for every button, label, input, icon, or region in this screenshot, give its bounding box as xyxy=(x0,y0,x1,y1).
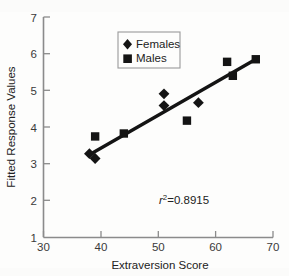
scatter-plot-figure: 7 6 5 4 3 2 1 30 40 50 60 70 Females xyxy=(0,0,289,276)
legend-label-males: Males xyxy=(136,52,167,64)
y-tick-label-2: 2 xyxy=(31,195,37,207)
x-tick-label-40: 40 xyxy=(95,241,108,253)
data-point-male xyxy=(223,58,231,66)
data-point-female xyxy=(193,97,204,108)
y-tick-label-3: 3 xyxy=(31,158,37,170)
data-point-male xyxy=(120,129,128,137)
y-axis-title: Fitted Response Values xyxy=(5,66,17,187)
legend[interactable]: Females Males xyxy=(118,32,180,68)
x-tick-group xyxy=(44,231,274,238)
plot-canvas: 7 6 5 4 3 2 1 30 40 50 60 70 Females xyxy=(0,0,289,276)
r-squared-annotation: r2=0.8915 xyxy=(159,193,209,206)
y-tick-label-5: 5 xyxy=(31,85,37,97)
r-value: 0.8915 xyxy=(174,194,209,206)
y-tick-label-7: 7 xyxy=(31,12,37,24)
data-point-male xyxy=(252,55,260,63)
y-tick-label-1: 1 xyxy=(31,232,37,244)
x-tick-label-50: 50 xyxy=(152,241,165,253)
data-point-female xyxy=(159,88,170,99)
legend-square-icon xyxy=(123,54,132,63)
legend-label-females: Females xyxy=(136,38,180,50)
y-tick-label-4: 4 xyxy=(31,122,38,134)
data-point-male xyxy=(183,116,191,124)
y-tick-label-6: 6 xyxy=(31,48,37,60)
data-point-male xyxy=(91,132,99,140)
x-axis-title: Extraversion Score xyxy=(111,259,208,271)
x-tick-label-70: 70 xyxy=(267,241,280,253)
data-point-male xyxy=(229,72,237,80)
x-tick-label-30: 30 xyxy=(37,241,50,253)
x-tick-label-60: 60 xyxy=(209,241,222,253)
y-tick-group xyxy=(44,17,51,200)
